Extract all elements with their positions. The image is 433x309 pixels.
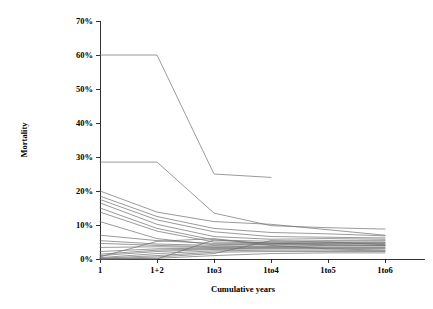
x-tick-label: 1to3 bbox=[206, 265, 222, 275]
series-line bbox=[100, 222, 385, 245]
x-tick-label: 1to5 bbox=[320, 265, 336, 275]
y-tick-label: 70% bbox=[76, 16, 93, 26]
y-tick-label: 50% bbox=[76, 84, 93, 94]
y-axis: 0%10%20%30%40%50%60%70% bbox=[76, 16, 100, 264]
y-tick-label: 10% bbox=[76, 220, 93, 230]
x-tick-label: 1to4 bbox=[263, 265, 279, 275]
y-tick-label: 0% bbox=[80, 254, 93, 264]
mortality-line-chart: 0%10%20%30%40%50%60%70% 11+21to31to41to5… bbox=[0, 0, 433, 309]
series-line bbox=[100, 191, 385, 235]
series-line bbox=[100, 208, 385, 241]
plot-area: 0%10%20%30%40%50%60%70% 11+21to31to41to5… bbox=[19, 16, 425, 294]
series-lines bbox=[100, 55, 385, 259]
x-tick-label: 1+2 bbox=[150, 265, 163, 275]
series-line bbox=[100, 196, 385, 236]
y-tick-label: 40% bbox=[76, 118, 93, 128]
x-tick-label: 1 bbox=[98, 265, 102, 275]
series-line bbox=[100, 55, 271, 177]
x-axis-title: Cumulative years bbox=[211, 284, 276, 294]
y-tick-label: 30% bbox=[76, 152, 93, 162]
y-tick-label: 20% bbox=[76, 186, 93, 196]
x-axis: 11+21to31to41to51to6 bbox=[98, 259, 425, 275]
y-tick-label: 60% bbox=[76, 50, 93, 60]
series-line bbox=[100, 203, 385, 239]
y-axis-title: Mortality bbox=[19, 122, 29, 158]
x-tick-label: 1to6 bbox=[377, 265, 393, 275]
chart-canvas: 0%10%20%30%40%50%60%70% 11+21to31to41to5… bbox=[0, 0, 433, 309]
